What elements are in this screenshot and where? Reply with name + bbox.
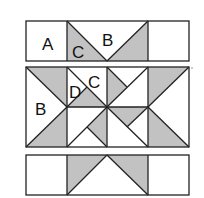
label-a: A — [42, 35, 54, 54]
top-right-square — [148, 21, 189, 61]
label-d: D — [69, 83, 81, 102]
bottom-left-square — [26, 155, 67, 195]
bottom-right-square — [148, 155, 189, 195]
label-b-center: B — [35, 100, 46, 119]
center-block: B D C — [26, 67, 189, 147]
artifact-dot — [191, 67, 193, 69]
bottom-strip — [26, 155, 189, 195]
quilt-diagram: A C B — [0, 0, 204, 198]
label-b-top: B — [102, 31, 113, 50]
top-strip: A C B — [26, 21, 189, 62]
label-c-center: C — [88, 73, 100, 92]
label-c-top: C — [72, 43, 84, 62]
